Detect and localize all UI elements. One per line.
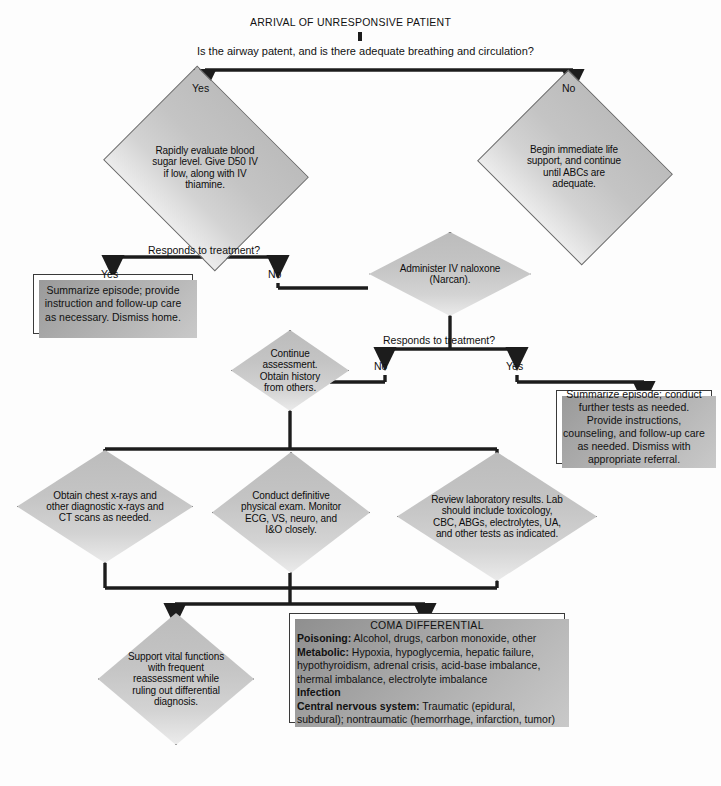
branch-label-naloxone-no: No	[374, 360, 387, 372]
box-coma-differential[interactable]: COMA DIFFERENTIAL Poisoning: Alcohol, dr…	[289, 613, 565, 723]
coma-differential-row-body: Alcohol, drugs, carbon monoxide, other	[351, 632, 536, 644]
diamond-blood-sugar[interactable]: Rapidly evaluate blood sugar level. Give…	[127, 102, 283, 233]
diamond-xrays-label: Obtain chest x-rays and other diagnostic…	[40, 490, 170, 524]
question-responds-naloxone: Responds to treatment?	[383, 334, 495, 346]
diamond-physical-exam-label: Conduct definitive physical exam. Monito…	[232, 490, 350, 535]
diamond-naloxone-label: Administer IV naloxone (Narcan).	[392, 263, 508, 285]
branch-label-top-yes: Yes	[192, 82, 209, 94]
coma-differential-row-head: Poisoning:	[297, 632, 351, 644]
coma-differential-row-body: thermal imbalance, electrolyte imbalance	[297, 673, 487, 685]
coma-differential-title: COMA DIFFERENTIAL	[297, 619, 557, 632]
coma-differential-row-body: Hypoxia, hypoglycemia, hepatic failure,	[349, 646, 534, 658]
coma-differential-row: hypothyroidism, adrenal crisis, acid-bas…	[297, 659, 557, 672]
coma-differential-row-head: Infection	[297, 686, 341, 698]
branch-label-sugar-yes: Yes	[101, 268, 118, 280]
coma-differential-row: Poisoning: Alcohol, drugs, carbon monoxi…	[297, 632, 557, 645]
top-question: Is the airway patent, and is there adequ…	[197, 45, 534, 57]
coma-differential-row: subdural); nontraumatic (hemorrhage, inf…	[297, 713, 557, 726]
question-responds-sugar: Responds to treatment?	[148, 244, 260, 256]
diamond-blood-sugar-label: Rapidly evaluate blood sugar level. Give…	[145, 145, 265, 190]
diamond-life-support-label: Begin immediate life support, and contin…	[518, 144, 630, 189]
diamond-labs-label: Review laboratory results. Lab should in…	[423, 494, 571, 539]
page-title: ARRIVAL OF UNRESPONSIVE PATIENT	[250, 16, 451, 28]
diamond-xrays[interactable]: Obtain chest x-rays and other diagnostic…	[17, 450, 193, 563]
coma-differential-row-head: Metabolic:	[297, 646, 349, 658]
branch-label-top-no: No	[562, 82, 575, 94]
diamond-life-support[interactable]: Begin immediate life support, and contin…	[501, 103, 647, 230]
diamond-continue-assessment-label: Continue assessment. Obtain history from…	[243, 348, 337, 393]
coma-differential-rows: Poisoning: Alcohol, drugs, carbon monoxi…	[297, 632, 557, 726]
branch-label-sugar-no: No	[268, 268, 281, 280]
box-summarize-left[interactable]: Summarize episode; provide instruction a…	[33, 274, 193, 334]
box-summarize-right-label: Summarize episode; conduct further tests…	[557, 384, 711, 471]
coma-differential-row: Infection	[297, 686, 557, 699]
coma-differential-row-body: Traumatic (epidural,	[420, 700, 516, 712]
coma-differential-row: thermal imbalance, electrolyte imbalance	[297, 673, 557, 686]
flowchart-canvas: ARRIVAL OF UNRESPONSIVE PATIENT Is the a…	[0, 0, 721, 786]
diamond-naloxone[interactable]: Administer IV naloxone (Narcan).	[369, 232, 531, 316]
diamond-support-vital[interactable]: Support vital functions with frequent re…	[98, 613, 254, 745]
diamond-support-vital-label: Support vital functions with frequent re…	[114, 651, 238, 707]
coma-differential-row-head: Central nervous system:	[297, 700, 420, 712]
box-summarize-left-label: Summarize episode; provide instruction a…	[34, 280, 192, 327]
coma-differential-row: Metabolic: Hypoxia, hypoglycemia, hepati…	[297, 646, 557, 659]
diamond-physical-exam[interactable]: Conduct definitive physical exam. Monito…	[212, 452, 370, 573]
branch-label-naloxone-yes: Yes	[506, 360, 523, 372]
coma-differential-row: Central nervous system: Traumatic (epidu…	[297, 700, 557, 713]
box-summarize-right[interactable]: Summarize episode; conduct further tests…	[556, 390, 712, 464]
coma-differential-row-body: hypothyroidism, adrenal crisis, acid-bas…	[297, 659, 540, 671]
coma-differential-row-body: subdural); nontraumatic (hemorrhage, inf…	[297, 713, 555, 725]
diamond-labs[interactable]: Review laboratory results. Lab should in…	[397, 452, 597, 581]
diamond-continue-assessment[interactable]: Continue assessment. Obtain history from…	[231, 330, 349, 411]
